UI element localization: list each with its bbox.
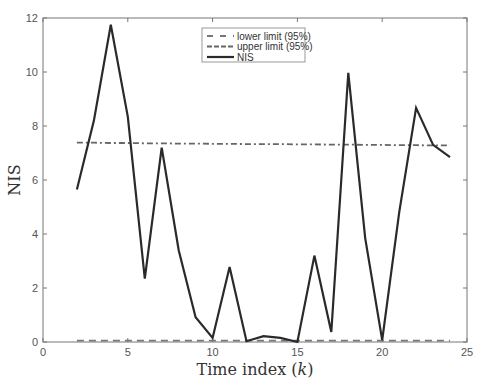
legend-label: NIS <box>237 52 254 63</box>
x-tick-label: 20 <box>376 346 388 358</box>
series-nis <box>77 25 450 342</box>
y-tick-label: 4 <box>32 228 38 240</box>
x-tick-label: 15 <box>291 346 303 358</box>
legend: lower limit (95%)upper limit (95%)NIS <box>202 28 313 63</box>
legend-label: lower limit (95%) <box>237 31 311 42</box>
series-layer <box>77 25 450 342</box>
nis-chart: 0510152025024681012 lower limit (95%)upp… <box>0 0 487 388</box>
x-tick-label: 25 <box>461 346 473 358</box>
y-tick-label: 6 <box>32 174 38 186</box>
legend-label: upper limit (95%) <box>237 41 313 52</box>
y-tick-label: 10 <box>26 66 38 78</box>
y-tick-label: 8 <box>32 120 38 132</box>
y-tick-label: 2 <box>32 282 38 294</box>
axes: 0510152025024681012 <box>26 12 473 358</box>
y-tick-label: 0 <box>32 336 38 348</box>
y-axis-label: NIS <box>5 164 24 195</box>
series-upper-limit-95 <box>77 143 450 146</box>
x-tick-label: 0 <box>40 346 46 358</box>
x-axis-label: Time index (k) <box>197 360 314 379</box>
x-tick-label: 10 <box>206 346 218 358</box>
y-tick-label: 12 <box>26 12 38 24</box>
x-tick-label: 5 <box>125 346 131 358</box>
